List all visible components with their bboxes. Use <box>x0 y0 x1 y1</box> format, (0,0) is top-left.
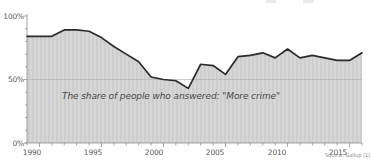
x-axis-label-1990: 1990 <box>12 148 52 157</box>
x-axis-label-1995: 1995 <box>73 148 113 157</box>
cropped-heading-remnant-b <box>303 0 314 3</box>
cropped-heading-remnant-a <box>266 0 276 3</box>
y-axis-label-0: 0% <box>0 139 24 148</box>
source-note: Source: Gallup (1) <box>325 152 370 158</box>
chart-annotation: The share of people who answered: "More … <box>62 91 280 101</box>
y-axis-label-100: 100% <box>0 12 24 21</box>
chart-plot-area <box>0 0 372 164</box>
area-fill <box>27 30 362 143</box>
y-axis-label-50: 50% <box>0 75 24 84</box>
crime-perception-chart: 100% 50% 0% 1990 1995 2000 2005 2010 201… <box>0 0 372 164</box>
x-axis-label-2000: 2000 <box>134 148 174 157</box>
x-axis-label-2010: 2010 <box>257 148 297 157</box>
x-axis-label-2005: 2005 <box>195 148 235 157</box>
